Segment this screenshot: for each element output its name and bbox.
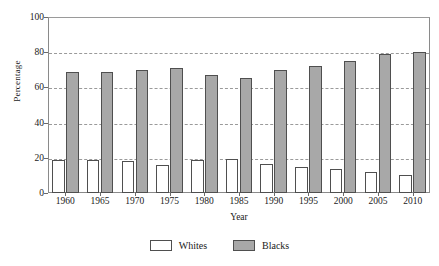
y-tick-mark-0 <box>44 193 48 194</box>
gray-square-swatch-icon <box>233 240 255 251</box>
gridline-40 <box>49 124 429 125</box>
x-tick-mark-1990 <box>274 192 275 196</box>
y-tick-label-20: 20 <box>4 153 44 163</box>
x-tick-mark-2005 <box>378 192 379 196</box>
x-tick-mark-2010 <box>413 192 414 196</box>
y-tick-label-60: 60 <box>4 82 44 92</box>
x-axis-ticks: 1960196519701975198019851990199520002005… <box>48 196 430 212</box>
legend-item-blacks[interactable]: Blacks <box>233 240 289 251</box>
x-tick-mark-1975 <box>170 192 171 196</box>
white-square-swatch-icon <box>150 240 172 251</box>
x-tick-mark-1995 <box>308 192 309 196</box>
gridline-60 <box>49 88 429 89</box>
legend-label-blacks: Blacks <box>262 240 289 251</box>
x-tick-mark-1960 <box>65 192 66 196</box>
y-tick-label-100: 100 <box>4 12 44 22</box>
x-tick-mark-1980 <box>204 192 205 196</box>
gridline-20 <box>49 159 429 160</box>
gridline-80 <box>49 53 429 54</box>
y-tick-label-40: 40 <box>4 118 44 128</box>
plot-area <box>48 17 430 193</box>
x-tick-mark-1970 <box>135 192 136 196</box>
legend-label-whites: Whites <box>179 240 207 251</box>
y-axis-ticks: 020406080100 <box>0 17 44 193</box>
legend-item-whites[interactable]: Whites <box>150 240 207 251</box>
x-axis-title: Year <box>48 212 430 222</box>
y-tick-label-80: 80 <box>4 47 44 57</box>
x-tick-mark-1965 <box>100 192 101 196</box>
x-tick-label-2010: 2010 <box>393 196 433 206</box>
bar-chart: Percentage 020406080100 1960196519701975… <box>0 0 439 266</box>
y-tick-label-0: 0 <box>4 188 44 198</box>
chart-legend: Whites Blacks <box>0 240 439 251</box>
x-tick-mark-2000 <box>343 192 344 196</box>
x-tick-mark-1985 <box>239 192 240 196</box>
